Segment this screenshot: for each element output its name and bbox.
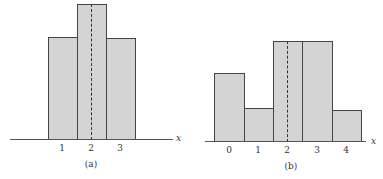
tick-b-4: 4 [343, 145, 349, 155]
x-axis-b [205, 141, 366, 142]
bar-b-3 [302, 41, 333, 142]
tick-b-3: 3 [314, 145, 320, 155]
tick-a-2: 2 [88, 143, 94, 153]
bar-b-1 [244, 108, 274, 142]
bar-a-3 [106, 38, 136, 140]
tick-a-1: 1 [59, 143, 65, 153]
bar-b-2 [273, 41, 303, 142]
tick-b-2: 2 [284, 145, 290, 155]
mean-line-a [91, 4, 92, 140]
tick-b-1: 1 [255, 145, 261, 155]
bar-b-0 [214, 73, 245, 142]
bar-b-4 [332, 110, 362, 142]
tick-b-0: 0 [226, 145, 232, 155]
x-axis-label-b: x [371, 136, 376, 146]
tick-a-3: 3 [117, 143, 123, 153]
caption-a: (a) [85, 159, 97, 169]
caption-b: (b) [285, 161, 298, 171]
x-axis-a [10, 139, 173, 140]
bar-a-1 [48, 37, 78, 140]
bar-a-2 [77, 4, 107, 140]
x-axis-label-a: x [176, 133, 181, 143]
mean-line-b [287, 41, 288, 142]
